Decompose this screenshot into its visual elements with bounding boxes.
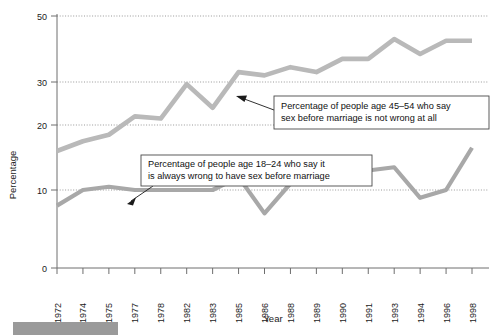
y-tick-label-20: 20 [37,121,47,131]
x-tick-label-1983: 1983 [208,303,218,323]
x-tick-label-1989: 1989 [312,303,322,323]
x-tick-label-1975: 1975 [104,303,114,323]
series-line-age-45-54 [57,39,472,151]
caption-banner [13,322,118,335]
x-tick-label-1988: 1988 [286,303,296,323]
x-tick-label-1974: 1974 [78,303,88,323]
x-tick-label-1977: 1977 [130,303,140,323]
y-axis-ticks [51,16,57,268]
x-tick-label-1982: 1982 [182,303,192,323]
annotation-45-54-line1: Percentage of people age 45–54 who say [281,101,451,111]
annotation-18-24-line2: is always wrong to have sex before marri… [148,171,330,181]
x-tick-label-1994: 1994 [416,303,426,323]
x-axis-title: Year [263,313,282,324]
x-tick-label-1998: 1998 [468,303,478,323]
y-tick-label-10: 10 [37,186,47,196]
annotation-45-54: Percentage of people age 45–54 who say s… [236,96,489,130]
y-tick-label-0: 0 [42,264,47,274]
annotation-45-54-line2: sex before marriage is not wrong at all [281,113,437,123]
chart-figure: 50 30 20 10 0 Percentage 197219741975197… [0,0,501,335]
x-tick-label-1993: 1993 [390,303,400,323]
annotation-45-54-arrowhead [236,96,247,103]
x-tick-label-1991: 1991 [364,303,374,323]
x-axis-ticks [57,268,472,274]
x-tick-label-1985: 1985 [234,303,244,323]
annotation-18-24-arrowhead [127,198,136,206]
x-tick-label-1972: 1972 [53,303,63,323]
y-tick-label-50: 50 [37,12,47,22]
x-tick-label-1990: 1990 [338,303,348,323]
y-tick-label-30: 30 [37,78,47,88]
line-chart: 50 30 20 10 0 Percentage 197219741975197… [0,0,501,335]
annotation-18-24-line1: Percentage of people age 18–24 who say i… [148,159,325,169]
x-tick-label-1978: 1978 [156,303,166,323]
y-axis-title: Percentage [7,151,18,200]
x-tick-label-1996: 1996 [442,303,452,323]
annotation-18-24: Percentage of people age 18–24 who say i… [127,155,372,206]
y-axis-tick-labels: 50 30 20 10 0 [37,12,47,274]
